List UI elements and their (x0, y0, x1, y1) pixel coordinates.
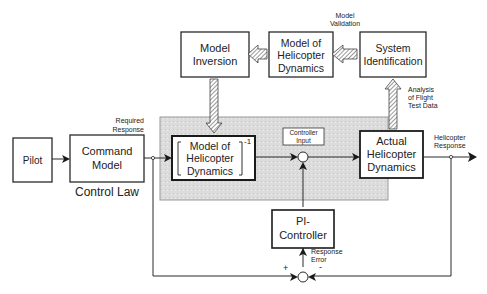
helicopter-response-label-line1: Helicopter (434, 134, 466, 142)
arrow-ref-to-error (290, 273, 298, 281)
pilot-label: Pilot (23, 155, 43, 166)
actual-dynamics-block: Actual Helicopter Dynamics (360, 131, 423, 178)
model-dynamics-label-line3: Dynamics (278, 62, 324, 74)
controller-summing-junction (298, 152, 308, 162)
hatched-arrow-inversion-to-inverse-model (206, 79, 222, 133)
model-validation-label-line1: Model (335, 12, 355, 19)
model-dynamics-block: Model of Helicopter Dynamics (269, 32, 333, 77)
inverse-model-label-line1: Model of (190, 140, 230, 152)
actual-dynamics-label-line2: Helicopter (367, 148, 417, 160)
controller-input-label-line2: Input (296, 137, 311, 145)
model-inversion-label-line2: Inversion (193, 55, 238, 67)
error-summing-junction (298, 272, 308, 282)
inverse-model-label-line2: Helicopter (186, 152, 234, 164)
arrow-feedback-to-error (308, 273, 316, 281)
plus-sign: + (283, 263, 288, 273)
helicopter-response-label-line2: Response (434, 142, 466, 150)
pi-controller-label-line1: PI- (296, 215, 310, 227)
pilot-block: Pilot (13, 138, 52, 182)
required-response-label-line2: Response (112, 126, 144, 134)
command-model-label-line2: Model (92, 159, 122, 171)
model-inversion-block: Model Inversion (181, 32, 249, 77)
command-model-block: Command Model (70, 135, 144, 182)
output-tap-point (449, 155, 452, 158)
model-validation-label-line2: Validation (330, 20, 360, 27)
model-dynamics-label-line2: Helicopter (277, 49, 325, 61)
analysis-label-line3: Test Data (408, 102, 438, 109)
inverse-model-label-line3: Dynamics (187, 165, 233, 177)
hatched-arrow-sysid-to-model (332, 45, 357, 63)
actual-dynamics-label-line3: Dynamics (367, 161, 416, 173)
reference-tap-point (151, 156, 154, 159)
inverse-exponent: -1 (244, 137, 252, 146)
inverse-model-block: Model of Helicopter Dynamics -1 (172, 136, 255, 180)
system-identification-label-line1: System (375, 42, 410, 54)
system-identification-label-line2: Identification (364, 55, 423, 67)
model-dynamics-label-line1: Model of (281, 37, 321, 49)
analysis-label-line2: of Flight (408, 94, 433, 102)
controller-input-label-line1: Controller (289, 129, 318, 136)
command-model-label-line1: Command (82, 145, 133, 157)
minus-sign: - (319, 262, 322, 272)
analysis-label-line1: Analysis (408, 86, 435, 94)
pi-controller-label-line2: Controller (279, 229, 327, 241)
response-error-label-line1: Response (311, 248, 343, 256)
pi-controller-block: PI- Controller (272, 210, 334, 248)
system-identification-block: System Identification (360, 32, 426, 77)
model-inversion-label-line1: Model (200, 42, 230, 54)
actual-dynamics-label-line1: Actual (376, 135, 407, 147)
hatched-arrow-model-to-inversion (248, 45, 267, 63)
controller-input-block: Controller Input (283, 128, 324, 145)
control-law-diagram: Pilot Command Model Control Law Required… (0, 0, 487, 294)
control-law-label: Control Law (75, 185, 139, 199)
required-response-label-line1: Required (116, 117, 145, 125)
